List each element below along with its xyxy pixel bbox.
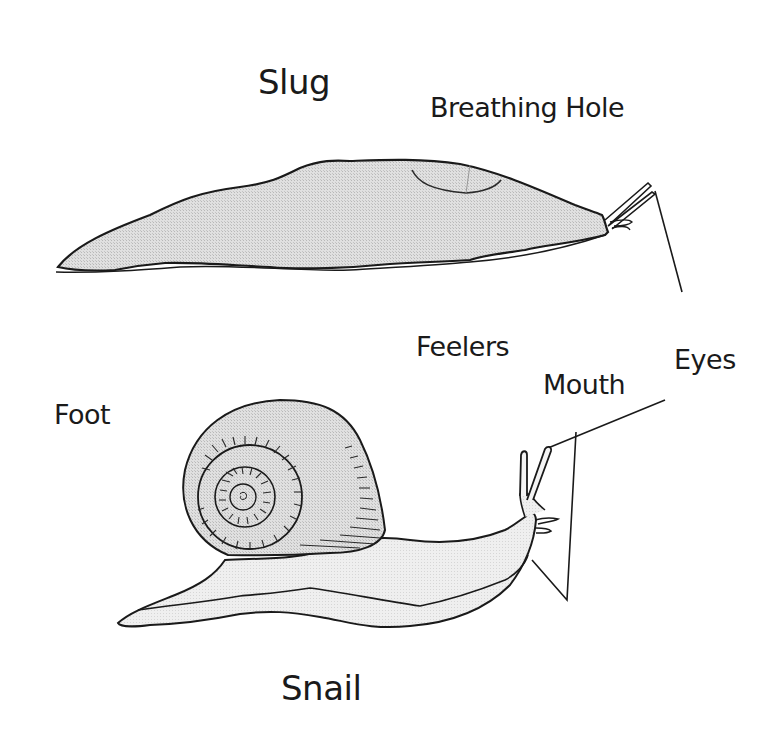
eyes-pointer-slug (655, 191, 682, 292)
diagram-illustration (0, 0, 780, 752)
slug-snail-diagram: Slug Breathing Hole Feelers Eyes Mouth F… (0, 0, 780, 752)
snail-title: Snail (281, 668, 361, 708)
snail-eye-stalk-right (527, 447, 551, 500)
mouth-pointer (532, 432, 576, 600)
snail-lower-feelers (535, 518, 558, 533)
feelers-label: Feelers (416, 331, 509, 362)
foot-label: Foot (54, 399, 110, 430)
slug-title: Slug (258, 62, 330, 102)
eyes-label: Eyes (674, 344, 736, 375)
breathing-hole-label: Breathing Hole (430, 92, 624, 123)
snail-eye-stalk-left (520, 451, 527, 496)
snail-drawing (118, 400, 576, 627)
mouth-label: Mouth (543, 369, 625, 400)
slug-body (58, 160, 608, 271)
eyes-pointer-snail (548, 400, 665, 448)
slug-drawing (56, 160, 655, 272)
